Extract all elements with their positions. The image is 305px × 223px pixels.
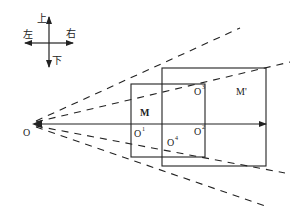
svg-text:2: 2: [202, 124, 205, 130]
ray-lower-outer: [36, 127, 268, 207]
m-label: M: [140, 107, 150, 118]
svg-text:O: O: [194, 86, 201, 97]
o1-label: O 1: [134, 126, 145, 139]
compass-right-label: 右: [66, 27, 76, 39]
compass-up-label: 上: [37, 13, 47, 24]
svg-text:O: O: [134, 128, 141, 139]
svg-text:4: 4: [175, 135, 178, 141]
compass: 上 下 左 右: [23, 13, 76, 67]
large-rect-m-prime: [162, 68, 266, 166]
m-prime-label: M': [236, 86, 247, 97]
ray-upper-inner: [36, 62, 290, 122]
projection-diagram: 上 下 左 右 O M M' O 1 O 2 O 3 O 4: [0, 0, 305, 223]
ray-upper-outer: [36, 28, 240, 121]
o2-label: O 2: [194, 124, 205, 137]
svg-text:3: 3: [202, 84, 205, 90]
svg-text:1: 1: [142, 126, 145, 132]
svg-text:O: O: [167, 137, 174, 148]
projection-rays: [36, 28, 290, 207]
o3-label: O 3: [194, 84, 205, 97]
o4-label: O 4: [167, 135, 178, 148]
svg-text:O: O: [194, 126, 201, 137]
origin-label: O: [23, 127, 30, 138]
compass-down-label: 下: [52, 55, 62, 66]
compass-left-label: 左: [23, 28, 33, 40]
